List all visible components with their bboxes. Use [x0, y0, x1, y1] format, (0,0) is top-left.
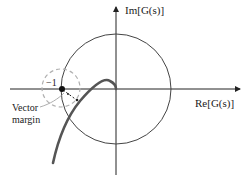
vector-margin-arrowhead [76, 99, 79, 102]
critical-point-label: −1 [46, 78, 57, 88]
critical-point-dot [59, 86, 65, 92]
vector-margin-label-line1: Vector [12, 102, 40, 114]
real-axis-label: Re[G(s)] [195, 98, 234, 109]
vector-margin-label: Vector margin [12, 102, 40, 126]
nyquist-curve [53, 80, 116, 163]
imag-axis-label: Im[G(s)] [125, 5, 164, 16]
nyquist-diagram [0, 0, 246, 175]
vector-margin-midpoint [67, 93, 69, 95]
vector-margin-label-line2: margin [12, 114, 40, 126]
vector-margin-arrow [63, 90, 78, 101]
